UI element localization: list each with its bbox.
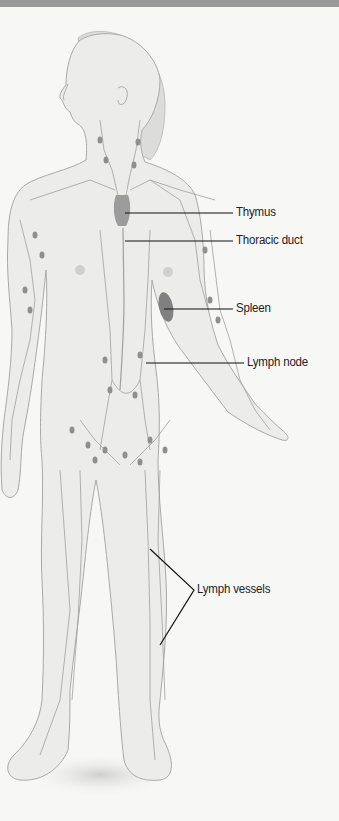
label-lymph-node: Lymph node: [247, 355, 308, 369]
thymus-organ: [114, 195, 130, 226]
label-lymph-vessels: Lymph vessels: [197, 582, 270, 596]
label-spleen: Spleen: [236, 301, 271, 315]
label-thoracic-duct: Thoracic duct: [236, 233, 303, 247]
label-thymus: Thymus: [236, 205, 276, 219]
lymphatic-body-illustration: [0, 0, 339, 821]
breast-left: [75, 265, 85, 275]
breast-right: [163, 267, 173, 277]
